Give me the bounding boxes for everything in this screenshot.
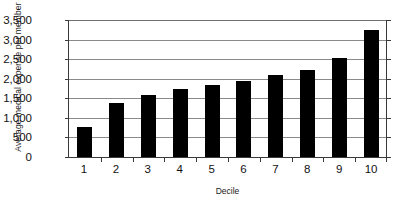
x-axis-tick-mark bbox=[228, 157, 229, 162]
x-axis-tick-mark bbox=[292, 157, 293, 162]
y-axis-tick-mark-right bbox=[387, 79, 391, 80]
bar[interactable] bbox=[236, 81, 251, 157]
x-axis-tick-mark bbox=[260, 157, 261, 162]
bar[interactable] bbox=[109, 103, 124, 157]
x-axis-tick-mark bbox=[196, 157, 197, 162]
bar-slot bbox=[101, 20, 133, 157]
bar-slot bbox=[260, 20, 292, 157]
bar-slot bbox=[133, 20, 165, 157]
x-axis-tick-label: 10 bbox=[355, 163, 387, 175]
x-axis-tick-label: 5 bbox=[196, 163, 228, 175]
bars-container bbox=[69, 20, 387, 157]
x-axis-tick-mark bbox=[355, 157, 356, 162]
y-axis-tick-mark-right bbox=[387, 137, 391, 138]
bar[interactable] bbox=[141, 95, 156, 157]
bar[interactable] bbox=[364, 30, 379, 157]
x-axis-tick-labels: 12345678910 bbox=[68, 163, 387, 175]
x-axis-tick-label: 9 bbox=[323, 163, 355, 175]
x-axis-tick-mark bbox=[133, 157, 134, 162]
bar-slot bbox=[196, 20, 228, 157]
bar-slot bbox=[164, 20, 196, 157]
y-axis-tick-mark-right bbox=[387, 20, 391, 21]
y-axis-tick-mark-right bbox=[387, 40, 391, 41]
x-axis-tick-label: 2 bbox=[100, 163, 132, 175]
bar[interactable] bbox=[173, 89, 188, 157]
x-axis-tick-label: 3 bbox=[132, 163, 164, 175]
y-axis-tick-mark-right bbox=[387, 59, 391, 60]
plot-area: 05001,0001,5002,0002,5003,0003,500 bbox=[68, 20, 387, 158]
y-axis-tick-mark-right bbox=[387, 118, 391, 119]
y-axis-title: Average medical expense per member bbox=[13, 0, 23, 161]
x-axis-tick-mark bbox=[101, 157, 102, 162]
bar-slot bbox=[323, 20, 355, 157]
x-axis-tick-label: 4 bbox=[164, 163, 196, 175]
bar-slot bbox=[228, 20, 260, 157]
bar[interactable] bbox=[77, 127, 92, 157]
y-axis-tick-mark-right bbox=[387, 157, 391, 158]
right-axis-line bbox=[386, 20, 387, 157]
x-axis-tick-mark bbox=[164, 157, 165, 162]
bar-chart: Average medical expense per member 05001… bbox=[0, 0, 418, 211]
bar-slot bbox=[355, 20, 387, 157]
bar[interactable] bbox=[205, 85, 220, 157]
bar-slot bbox=[292, 20, 324, 157]
x-axis-tick-label: 8 bbox=[291, 163, 323, 175]
y-axis-tick-mark-right bbox=[387, 98, 391, 99]
bar[interactable] bbox=[268, 75, 283, 157]
x-axis-tick-mark bbox=[323, 157, 324, 162]
x-axis-title: Decile bbox=[68, 186, 387, 196]
y-axis-tick-mark bbox=[65, 157, 69, 158]
x-axis-tick-mark bbox=[386, 157, 387, 162]
bar[interactable] bbox=[332, 58, 347, 157]
x-axis-tick-label: 7 bbox=[259, 163, 291, 175]
bar[interactable] bbox=[300, 70, 315, 157]
x-axis-tick-label: 6 bbox=[228, 163, 260, 175]
bar-slot bbox=[69, 20, 101, 157]
x-axis-tick-label: 1 bbox=[68, 163, 100, 175]
